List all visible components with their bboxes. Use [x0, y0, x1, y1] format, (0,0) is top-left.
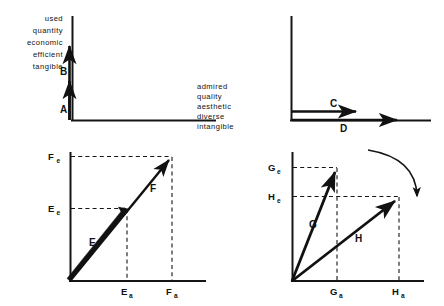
vector-D-label: D	[340, 123, 347, 134]
vector-E-shaft	[67, 207, 127, 281]
word-tangible: tangible	[33, 62, 63, 71]
tick-Fe-main: F	[48, 151, 54, 162]
bottom-left-panel: F E F e E e E a F a	[48, 151, 206, 299]
tick-Ea-main: E	[121, 286, 127, 297]
vector-H-label: H	[355, 233, 362, 244]
tick-Ga-sub: a	[339, 292, 343, 299]
vector-C-label: C	[330, 98, 337, 109]
vector-B-label: B	[60, 66, 67, 77]
tick-Fa-main: F	[166, 286, 172, 297]
tick-Fa-sub: a	[174, 292, 178, 299]
top-left-panel: used quantity economic efficient tangibl…	[27, 14, 216, 121]
tick-He-sub: e	[277, 197, 281, 204]
word-used: used	[45, 14, 63, 23]
tick-He-main: H	[268, 191, 275, 202]
vector-diagram-figure: used quantity economic efficient tangibl…	[0, 0, 444, 306]
word-diverse: diverse	[197, 112, 225, 121]
word-efficient: efficient	[33, 50, 64, 59]
word-admired: admired	[197, 82, 228, 91]
tick-Ha-sub: a	[401, 292, 405, 299]
tick-Ge-sub: e	[277, 168, 281, 175]
diagram-canvas: used quantity economic efficient tangibl…	[0, 0, 444, 306]
tick-Ea-sub: a	[129, 292, 133, 299]
tick-Fe-sub: e	[57, 157, 61, 164]
tick-Ga-main: G	[330, 286, 337, 297]
vector-G-label: G	[309, 219, 317, 230]
tick-Ge-main: G	[268, 162, 275, 173]
tick-Ha-main: H	[392, 286, 399, 297]
bottom-right-panel: G H G e H e G a H a	[268, 150, 424, 299]
tick-Ee-sub: e	[57, 209, 61, 216]
word-quantity: quantity	[33, 26, 63, 35]
vector-F-label: F	[150, 183, 156, 194]
vertical-axis-word-list: used quantity economic efficient tangibl…	[27, 14, 64, 71]
tick-Ee-main: E	[48, 203, 54, 214]
horizontal-axis-word-list: admired quality aesthetic diverse intang…	[197, 82, 234, 131]
word-economic: economic	[27, 38, 63, 47]
word-quality: quality	[197, 92, 222, 101]
vector-E-label: E	[89, 237, 96, 248]
word-aesthetic: aesthetic	[197, 102, 231, 111]
vector-A-label: A	[60, 104, 67, 115]
word-intangible: intangible	[197, 122, 234, 131]
rotation-arc-icon	[368, 150, 417, 196]
top-right-panel: admired quality aesthetic diverse intang…	[197, 16, 431, 134]
